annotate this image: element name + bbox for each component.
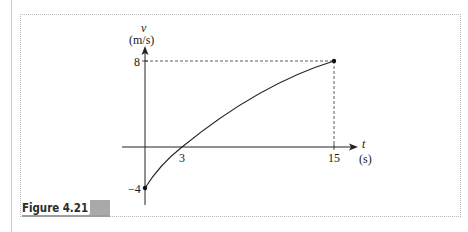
tick-label-3: 3 — [179, 152, 185, 164]
tick-label-8: 8 — [134, 56, 140, 68]
velocity-time-graph — [0, 0, 468, 232]
figure-caption-text: Figure 4.21 — [22, 201, 89, 215]
point-start — [143, 186, 147, 190]
caption-accent-block — [90, 200, 110, 215]
x-axis-label: t — [362, 138, 365, 150]
y-axis-unit: (m/s) — [129, 34, 154, 46]
tick-label-minus-4: −4 — [128, 183, 141, 195]
figure-caption: Figure 4.21 — [22, 199, 104, 215]
velocity-curve — [145, 61, 334, 188]
x-axis-unit: (s) — [359, 153, 372, 165]
point-end — [332, 59, 336, 63]
tick-label-15: 15 — [328, 152, 340, 164]
